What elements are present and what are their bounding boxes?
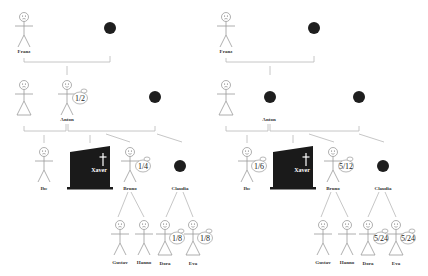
tombstone-name: Xaver (91, 167, 107, 173)
deceased-dot (377, 160, 389, 172)
name-label: Gustav (112, 260, 128, 265)
deceased-spouse-dot (104, 22, 116, 34)
share-badge: 5/24 (374, 234, 388, 243)
person-bruno: 1/4 Bruno (121, 148, 151, 192)
name-label: Gustav (315, 260, 331, 265)
person-ibe: Ibe (35, 148, 53, 192)
person-eva: 5/24 Eva (387, 221, 416, 267)
name-label: Anton (60, 117, 74, 122)
person-claudia: Claudia (375, 160, 392, 191)
name-label: Claudia (375, 186, 392, 191)
share-badge: 5/24 (401, 234, 415, 243)
name-label: Franz (220, 49, 234, 54)
name-label: Eva (392, 261, 401, 266)
share-badge: 1/6 (254, 162, 264, 171)
tombstone-name: Xaver (294, 167, 310, 173)
connector-lines (24, 56, 193, 217)
connector-lines (226, 56, 396, 217)
person-dora: 1/8 Dora (156, 221, 185, 267)
person-franz: Franz (217, 13, 235, 55)
name-label: Bruno (326, 186, 340, 191)
inheritance-diagram: Franz 1/2 Anton Ibe Xaver 1/4 Bruno (0, 0, 428, 276)
person-ibe: 1/6 Ibe (238, 148, 267, 192)
name-label: Eva (189, 261, 198, 266)
name-label: Hanno (137, 260, 152, 265)
name-label: Anton (262, 117, 276, 122)
person-anton: Anton (262, 91, 276, 122)
person-hanno: Hanno (135, 221, 153, 266)
person-claudia: Claudia (172, 160, 189, 191)
person-xaver-tombstone: Xaver (270, 146, 316, 190)
name-label: Ibe (244, 186, 252, 191)
person-xaver-tombstone: Xaver (67, 146, 113, 190)
name-label: Hanno (340, 260, 355, 265)
share-badge: 1/8 (172, 234, 182, 243)
name-label: Bruno (123, 186, 137, 191)
person-hanno: Hanno (338, 221, 356, 266)
person-anton-spouse (217, 81, 235, 116)
person-eva: 1/8 Eva (184, 221, 213, 267)
deceased-partner-dot (353, 91, 365, 103)
share-badge: 5/12 (339, 162, 353, 171)
person-gustav: Gustav (314, 221, 332, 266)
person-franz: Franz (15, 13, 33, 55)
deceased-dot (264, 91, 276, 103)
panel-left: Franz 1/2 Anton Ibe Xaver 1/4 Bruno (15, 13, 213, 267)
person-bruno: 5/12 Bruno (324, 148, 354, 192)
name-label: Dora (363, 261, 374, 266)
share-badge: 1/8 (200, 234, 210, 243)
name-label: Ibe (41, 186, 49, 191)
deceased-partner-dot (149, 91, 161, 103)
person-anton-spouse (15, 81, 33, 116)
deceased-dot (174, 160, 186, 172)
name-label: Dora (160, 261, 171, 266)
name-label: Franz (18, 49, 32, 54)
share-badge: 1/4 (138, 162, 148, 171)
panel-right: Franz Anton 1/6 Ibe Xaver 5/12 Bruno (217, 13, 416, 267)
person-anton: 1/2 Anton (58, 81, 88, 123)
deceased-spouse-dot (308, 22, 320, 34)
share-badge: 1/2 (75, 94, 85, 103)
person-gustav: Gustav (111, 221, 129, 266)
person-dora: 5/24 Dora (359, 221, 389, 267)
name-label: Claudia (172, 186, 189, 191)
